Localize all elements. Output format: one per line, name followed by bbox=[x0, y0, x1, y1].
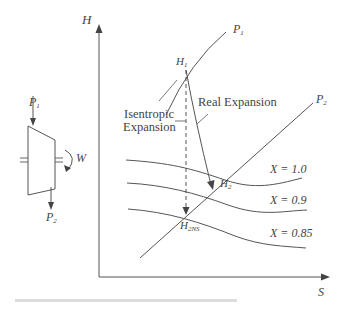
quality-label-x1-0: X = 1.0 bbox=[270, 163, 306, 175]
real-expansion-line bbox=[186, 70, 211, 185]
y-axis-label: H bbox=[82, 13, 91, 26]
isentropic-expansion-label-line1: Isentropic bbox=[124, 108, 174, 121]
turbine-icon bbox=[20, 96, 72, 210]
real-expansion-label: Real Expansion bbox=[198, 96, 277, 109]
point-h1-label: H1 bbox=[176, 56, 187, 69]
isobar-p1-label: P1 bbox=[233, 23, 244, 37]
real-expansion-arrowhead-icon bbox=[207, 180, 215, 190]
hs-diagram-canvas bbox=[0, 0, 347, 312]
quality-label-x0-9: X = 0.9 bbox=[270, 194, 306, 206]
quality-label-x0-85: X = 0.85 bbox=[270, 227, 312, 239]
isentropic-expansion-label-line2: Expansion bbox=[123, 121, 176, 134]
turbine-inlet-label: P1 bbox=[29, 96, 40, 110]
x-axis-label: S bbox=[318, 286, 324, 298]
turbine-work-label: W bbox=[76, 152, 86, 164]
isentropic-arrowhead-icon bbox=[183, 207, 190, 215]
point-h2ns-label: H2NS bbox=[180, 220, 200, 233]
x-axis bbox=[99, 274, 330, 281]
point-h2-label: H2 bbox=[220, 178, 231, 191]
real-expansion-leader-line bbox=[197, 114, 208, 124]
isobar-p2-label: P2 bbox=[316, 93, 327, 107]
footer-bar bbox=[15, 299, 237, 302]
turbine-outlet-label: P2 bbox=[46, 211, 57, 225]
y-axis bbox=[96, 24, 103, 277]
